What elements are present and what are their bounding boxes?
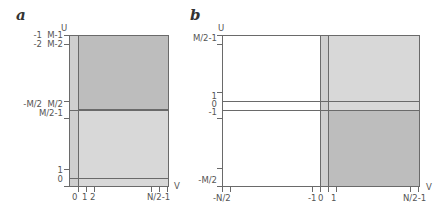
tick (410, 187, 411, 192)
panel-b-bottom-edge (222, 186, 320, 187)
tick (336, 187, 337, 192)
label-neg-nhalf: -N/2 (213, 194, 231, 203)
label-vneg1: -1 (308, 194, 316, 203)
panel-b-v-axis-label: V (426, 183, 432, 192)
tick (217, 118, 222, 119)
tick (328, 187, 329, 192)
panel-b-lower-region (320, 110, 420, 187)
panel-b-label: b (190, 6, 201, 24)
tick (217, 92, 222, 93)
label-v1: 1 (82, 193, 87, 202)
panel-b-left-edge (222, 35, 223, 187)
panel-b-u0-line (222, 101, 420, 102)
panel-b-top-edge (222, 35, 320, 36)
label-neg-mhalf: -M/2 (190, 176, 217, 185)
tick (64, 186, 69, 187)
panel-b-upper-region (320, 35, 420, 110)
panel-b-left-strip (321, 36, 328, 186)
panel-a-lower-region (69, 110, 169, 187)
label-nhalf-1: N/2-1 (403, 194, 426, 203)
tick (217, 35, 222, 36)
label-v0: 0 (72, 193, 77, 202)
label-neg1: -1 (202, 108, 217, 117)
tick (222, 187, 223, 192)
tick (320, 187, 321, 192)
tick (78, 187, 79, 192)
label-0: 0 (48, 175, 63, 184)
tick (230, 187, 231, 192)
label-nhalf-1: N/2-1 (147, 193, 170, 202)
label-v0: 0 (318, 194, 323, 203)
panel-b-v0-line (328, 35, 329, 187)
tick (64, 169, 69, 170)
label-v2: 2 (90, 193, 95, 202)
tick (64, 44, 69, 45)
panel-b-u-axis-label: U (218, 24, 224, 33)
tick (217, 168, 222, 169)
panel-a-v-axis-label: V (174, 182, 180, 191)
panel-a-v0-line (78, 35, 79, 187)
tick (64, 118, 69, 119)
panel-b-uneg1-line (222, 110, 420, 111)
panel-a-mhalf-line (69, 110, 169, 111)
panel-a-label: a (16, 6, 26, 24)
tick (64, 101, 69, 102)
tick (312, 187, 313, 192)
label-v1: 1 (331, 194, 336, 203)
tick (217, 44, 222, 45)
panel-a-left-strip (70, 36, 78, 186)
label-mhalf-1: M/2-1 (30, 109, 63, 118)
label-m-2: M-2 (38, 40, 63, 49)
panel-a-upper-region (69, 35, 169, 110)
tick (418, 187, 419, 192)
panel-a-u0-line (69, 178, 169, 179)
label-mhalf-1: M/2-1 (184, 34, 217, 43)
tick (64, 35, 69, 36)
